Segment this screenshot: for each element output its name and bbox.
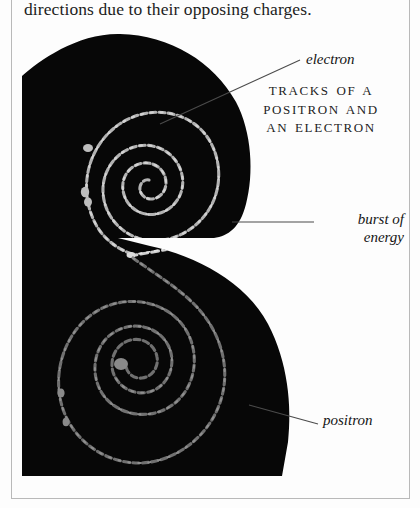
label-burst-of-energy: burst of energy: [318, 210, 404, 246]
caption-line-2: POSITRON AND: [248, 101, 394, 120]
body-paragraph: directions due to their opposing charges…: [24, 0, 400, 20]
label-positron: positron: [323, 411, 372, 429]
caption-line-3: AN ELECTRON: [248, 119, 394, 138]
photo-caption: TRACKS OF A POSITRON AND AN ELECTRON: [248, 82, 394, 138]
label-electron: electron: [306, 50, 355, 68]
page-canvas: directions due to their opposing charges…: [0, 0, 420, 508]
label-burst-line-2: energy: [318, 228, 404, 246]
caption-line-1: TRACKS OF A: [248, 82, 394, 101]
label-burst-line-1: burst of: [318, 210, 404, 228]
